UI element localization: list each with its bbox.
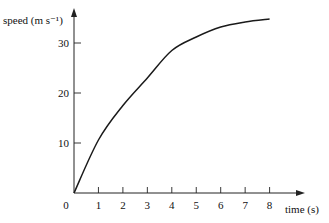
x-tick-label-6: 6	[218, 199, 224, 211]
x-tick-label-3: 3	[145, 199, 151, 211]
x-tick-label-8: 8	[267, 199, 273, 211]
y-axis-arrow-icon	[71, 8, 77, 17]
y-tick-label-10: 10	[58, 137, 70, 149]
x-tick-label-5: 5	[194, 199, 200, 211]
x-tick-label-1: 1	[96, 199, 102, 211]
chart: 012345678 102030 speed (m s⁻¹) time (s)	[0, 0, 329, 223]
x-axis-label: time (s)	[285, 203, 319, 216]
x-tick-label-2: 2	[120, 199, 126, 211]
x-tick-label-4: 4	[169, 199, 175, 211]
axes	[71, 8, 305, 196]
x-axis-arrow-icon	[296, 190, 305, 196]
y-axis-label: speed (m s⁻¹)	[3, 14, 63, 27]
x-tick-label-0: 0	[63, 199, 69, 211]
y-tick-label-30: 30	[58, 37, 70, 49]
y-tick-label-20: 20	[58, 87, 70, 99]
series-line-speed	[74, 19, 270, 193]
x-tick-label-7: 7	[242, 199, 248, 211]
